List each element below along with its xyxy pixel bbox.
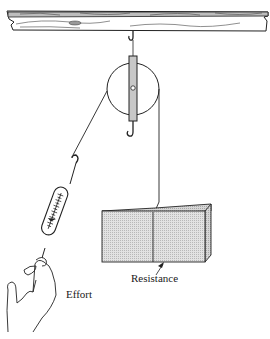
pulley-diagram [0,0,270,339]
resistance-label: Resistance [131,272,178,284]
ceiling-hook [129,31,133,56]
resistance-block [102,204,211,262]
pulley-wheel [107,56,159,136]
effort-label: Effort [66,288,92,300]
ceiling-beam [7,11,268,31]
spring-scale [40,155,78,258]
hand [7,258,56,333]
